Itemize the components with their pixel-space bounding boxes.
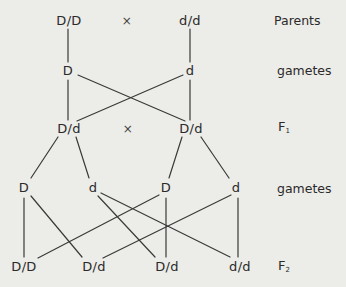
f2-genotype-DD: D/D (11, 260, 36, 274)
line-f1-right-to-gamete2-D (169, 137, 182, 178)
cross-symbol-parents: × (122, 14, 132, 28)
f2-label-subscript: 2 (285, 266, 289, 274)
f2-genotype-Dd-2: D/d (155, 260, 179, 274)
row-label-gametes-2: gametes (277, 182, 332, 196)
gamete-1-d: d (186, 64, 195, 78)
gamete-2-D-left: D (19, 181, 29, 195)
gamete-2-D-right: D (161, 181, 171, 195)
f2-genotype-dd: d/d (229, 260, 251, 274)
gamete-2-d-right: d (232, 181, 241, 195)
gamete-1-D: D (63, 64, 73, 78)
f2-genotype-Dd-1: D/d (82, 260, 106, 274)
f1-genotype-right: D/d (179, 122, 203, 136)
row-label-f1: F1 (278, 120, 290, 138)
line-f1-left-to-gamete2-D (31, 137, 58, 178)
line-f1-right-to-gamete2-d (201, 137, 229, 178)
cross-symbol-f1: × (123, 122, 133, 136)
row-label-gametes-1: gametes (277, 64, 332, 78)
gamete-2-d-left: d (89, 181, 98, 195)
parent-genotype-right: d/d (179, 14, 201, 28)
parent-genotype-left: D/D (56, 14, 81, 28)
genetic-cross-diagram: D/D × d/d Parents D d gametes D/d × D/d … (0, 0, 346, 287)
connection-lines (0, 0, 346, 287)
row-label-f2: F2 (278, 259, 290, 277)
f1-genotype-left: D/d (57, 122, 81, 136)
row-label-parents: Parents (274, 14, 321, 28)
f1-label-subscript: 1 (285, 127, 289, 135)
line-f1-left-to-gamete2-d (76, 137, 89, 178)
